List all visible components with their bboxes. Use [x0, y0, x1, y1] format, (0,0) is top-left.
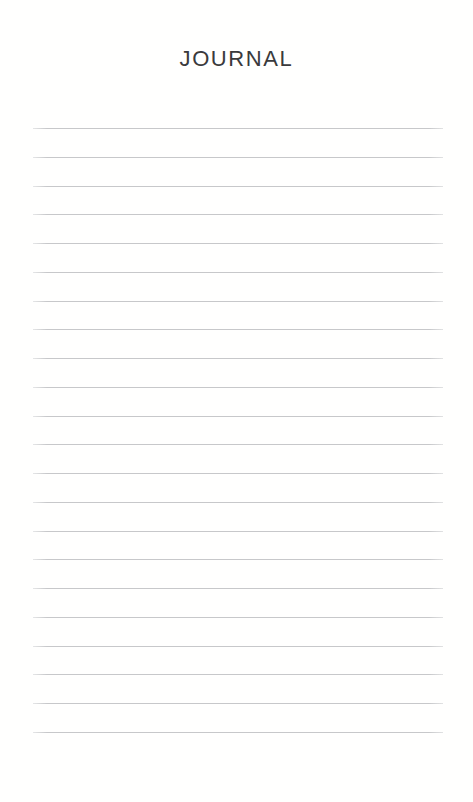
journal-page: JOURNAL — [0, 0, 473, 802]
journal-line-row[interactable] — [33, 272, 443, 301]
page-title: JOURNAL — [180, 48, 294, 70]
journal-line-text[interactable] — [33, 560, 443, 587]
journal-line-row[interactable] — [33, 502, 443, 531]
journal-line-text[interactable] — [33, 503, 443, 530]
journal-line-row[interactable] — [33, 588, 443, 617]
journal-line-row[interactable] — [33, 387, 443, 416]
journal-line-text[interactable] — [33, 704, 443, 731]
journal-line-row[interactable] — [33, 157, 443, 186]
journal-line-row[interactable] — [33, 531, 443, 560]
journal-line-row[interactable] — [33, 674, 443, 703]
journal-line-row[interactable] — [33, 646, 443, 675]
journal-line-text[interactable] — [33, 359, 443, 386]
journal-line-text[interactable] — [33, 129, 443, 156]
journal-line-row[interactable] — [33, 732, 443, 761]
journal-line-row[interactable] — [33, 703, 443, 732]
journal-line-row[interactable] — [33, 559, 443, 588]
journal-line-text[interactable] — [33, 532, 443, 559]
journal-line-row[interactable] — [33, 128, 443, 157]
journal-line-row[interactable] — [33, 214, 443, 243]
journal-line-row[interactable] — [33, 243, 443, 272]
page-header: JOURNAL — [0, 0, 473, 110]
journal-line-text[interactable] — [33, 187, 443, 214]
journal-line-text[interactable] — [33, 302, 443, 329]
journal-line-text[interactable] — [33, 215, 443, 242]
journal-line-text[interactable] — [33, 647, 443, 674]
journal-line-row[interactable] — [33, 416, 443, 445]
journal-line-text[interactable] — [33, 474, 443, 501]
journal-line-text[interactable] — [33, 388, 443, 415]
journal-line-text[interactable] — [33, 618, 443, 645]
journal-line-text[interactable] — [33, 445, 443, 472]
journal-line-row[interactable] — [33, 617, 443, 646]
ruled-writing-area[interactable] — [33, 128, 443, 733]
journal-line-text[interactable] — [33, 417, 443, 444]
journal-line-text[interactable] — [33, 675, 443, 702]
journal-line-row[interactable] — [33, 473, 443, 502]
journal-line-row[interactable] — [33, 186, 443, 215]
journal-line-text[interactable] — [33, 273, 443, 300]
journal-line-row[interactable] — [33, 301, 443, 330]
journal-line-text[interactable] — [33, 244, 443, 271]
journal-line-text[interactable] — [33, 330, 443, 357]
journal-line-row[interactable] — [33, 358, 443, 387]
journal-line-row[interactable] — [33, 329, 443, 358]
journal-line-row[interactable] — [33, 444, 443, 473]
journal-line-text[interactable] — [33, 589, 443, 616]
journal-line-text[interactable] — [33, 158, 443, 185]
journal-line-text[interactable] — [33, 733, 443, 760]
